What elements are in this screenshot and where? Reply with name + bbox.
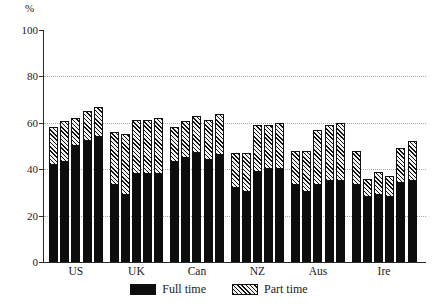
bar-nz-5	[275, 123, 284, 262]
bar-segment-part-time	[363, 179, 372, 198]
y-tick-20: 20	[8, 211, 38, 222]
bar-can-2	[181, 120, 190, 262]
bar-segment-full-time	[94, 137, 103, 262]
chart-legend: Full time Part time	[0, 283, 438, 295]
bar-segment-full-time	[170, 162, 179, 262]
bar-segment-full-time	[132, 174, 141, 262]
bar-can-5	[215, 114, 224, 262]
bar-segment-part-time	[264, 125, 273, 169]
bar-segment-part-time	[275, 123, 284, 169]
bar-segment-full-time	[363, 197, 372, 262]
bar-nz-2	[242, 153, 251, 262]
bar-segment-part-time	[352, 151, 361, 186]
bar-can-3	[192, 116, 201, 262]
bar-us-4	[83, 111, 92, 262]
bar-group-aus	[291, 30, 345, 262]
y-tick-100: 100	[8, 25, 38, 36]
bar-segment-full-time	[143, 174, 152, 262]
bar-can-1	[170, 127, 179, 262]
y-axis-line	[43, 30, 44, 263]
bar-segment-part-time	[181, 121, 190, 158]
bar-segment-full-time	[231, 188, 240, 262]
bar-us-1	[49, 127, 58, 262]
legend-label-part-time: Part time	[264, 283, 308, 295]
bar-segment-full-time	[396, 183, 405, 262]
y-axis-tick-labels: 100 80 60 40 20 0	[4, 30, 38, 262]
bar-segment-part-time	[253, 125, 262, 171]
bar-aus-4	[325, 125, 334, 262]
bar-segment-full-time	[154, 174, 163, 262]
bar-can-4	[204, 120, 213, 262]
bar-ire-3	[374, 172, 383, 262]
x-axis-line	[43, 262, 426, 263]
bar-segment-part-time	[192, 116, 201, 153]
y-tick-60: 60	[8, 118, 38, 129]
x-axis-label-aus: Aus	[288, 266, 348, 278]
bar-segment-full-time	[385, 197, 394, 262]
bar-group-us	[49, 30, 103, 262]
y-axis-unit-label: %	[25, 2, 34, 14]
bar-segment-part-time	[170, 127, 179, 162]
bar-segment-full-time	[110, 185, 119, 262]
bar-ire-2	[363, 178, 372, 262]
bar-nz-3	[253, 125, 262, 262]
bar-aus-5	[336, 123, 345, 262]
bar-segment-part-time	[143, 120, 152, 173]
bar-segment-part-time	[231, 153, 240, 188]
bar-segment-part-time	[313, 130, 322, 186]
bar-segment-full-time	[253, 172, 262, 262]
bar-segment-full-time	[264, 169, 273, 262]
bar-uk-3	[132, 120, 141, 262]
bar-ire-4	[385, 176, 394, 262]
bar-group-nz	[231, 30, 285, 262]
solid-black-swatch-icon	[130, 284, 156, 295]
bar-segment-part-time	[374, 172, 383, 195]
bar-segment-part-time	[121, 134, 130, 194]
plot-area	[44, 30, 426, 262]
y-axis-tick-100	[39, 30, 44, 31]
bar-segment-part-time	[110, 132, 119, 185]
bar-us-2	[60, 120, 69, 262]
y-axis-tick-0	[39, 262, 44, 263]
bar-segment-part-time	[49, 127, 58, 164]
bar-segment-full-time	[291, 185, 300, 262]
bar-segment-part-time	[215, 114, 224, 156]
x-axis-label-ire: Ire	[354, 266, 414, 278]
bar-segment-part-time	[60, 121, 69, 163]
bar-segment-part-time	[396, 148, 405, 183]
bar-aus-1	[291, 151, 300, 262]
legend-label-full-time: Full time	[162, 283, 206, 295]
bar-segment-part-time	[385, 176, 394, 197]
bar-uk-2	[121, 134, 130, 262]
bar-segment-full-time	[121, 195, 130, 262]
bar-segment-full-time	[352, 185, 361, 262]
bar-segment-part-time	[94, 107, 103, 137]
bar-segment-part-time	[336, 123, 345, 181]
bar-segment-full-time	[242, 192, 251, 262]
bar-segment-part-time	[325, 125, 334, 181]
x-axis-label-can: Can	[167, 266, 227, 278]
bar-segment-full-time	[60, 162, 69, 262]
x-axis-label-nz: NZ	[227, 266, 287, 278]
bar-segment-full-time	[181, 158, 190, 262]
x-axis-label-us: US	[46, 266, 106, 278]
bar-segment-part-time	[242, 153, 251, 192]
bar-segment-full-time	[313, 185, 322, 262]
bar-uk-5	[154, 118, 163, 262]
bar-segment-part-time	[132, 120, 141, 173]
bar-us-5	[94, 107, 103, 262]
bar-group-ire	[352, 30, 417, 262]
bar-segment-full-time	[336, 181, 345, 262]
bar-segment-full-time	[275, 169, 284, 262]
legend-item-part-time: Part time	[232, 283, 308, 295]
bar-segment-part-time	[71, 118, 80, 146]
chart-container: % 100 80 60 40 20 0 USUKCanNZAusIre Full…	[0, 0, 438, 307]
y-tick-80: 80	[8, 71, 38, 82]
bar-segment-full-time	[204, 160, 213, 262]
bar-segment-full-time	[192, 153, 201, 262]
bar-segment-full-time	[374, 195, 383, 262]
bar-ire-5	[396, 148, 405, 262]
bar-uk-1	[110, 132, 119, 262]
x-axis-label-uk: UK	[106, 266, 166, 278]
y-tick-0: 0	[8, 257, 38, 268]
